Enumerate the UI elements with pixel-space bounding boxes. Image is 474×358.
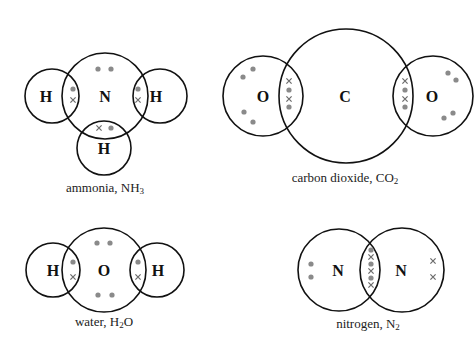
electron-cross-icon [402,96,407,101]
electron-dot-icon [108,66,113,71]
molecule-caption: water, H2O [75,314,133,330]
electron-cross-icon [430,258,435,263]
molecule-nitrogen: N N nitrogen, N2 [298,228,444,332]
atom-label: H [152,262,165,279]
electron-cross-icon [368,254,373,259]
molecule-caption: ammonia, NH3 [66,180,145,196]
electron-cross-icon [135,97,140,102]
electron-dot-icon [135,259,140,264]
molecule-ammonia: H N H H ammonia, NH3 [25,53,187,196]
electron-cross-icon [96,125,101,130]
diagram-canvas: H N H H ammonia, NH3 O C O carbon dioxid… [0,0,474,358]
electron-dot-icon [70,86,75,91]
electron-dot-icon [94,240,99,245]
electron-dot-icon [107,240,112,245]
electron-dot-icon [250,119,255,124]
electron-dot-icon [95,292,100,297]
electron-dot-icon [445,70,450,75]
molecule-caption: carbon dioxide, CO2 [292,170,399,186]
electron-cross-icon [402,78,407,83]
electron-dot-icon [368,247,373,252]
atom-label: H [98,140,111,157]
electron-dot-icon [109,292,114,297]
electron-cross-icon [135,274,140,279]
electron-cross-icon [368,282,373,287]
molecule-caption: nitrogen, N2 [336,316,400,332]
atom-label: H [40,88,53,105]
atom-label: N [395,262,407,279]
atom-label: H [47,262,60,279]
electron-dot-icon [135,86,140,91]
molecule-carbon-dioxide: O C O carbon dioxide, CO2 [223,29,473,186]
electron-group [308,247,435,287]
atom-label: O [257,88,269,105]
electron-dot-icon [368,261,373,266]
electron-dot-icon [402,87,407,92]
atom-label: O [98,262,110,279]
atom-label: N [99,88,111,105]
atom-label: N [332,262,344,279]
electron-dot-icon [453,77,458,82]
atom-label: H [150,88,163,105]
electron-dot-icon [402,104,407,109]
electron-dot-icon [286,87,291,92]
electron-dot-icon [95,66,100,71]
atom-label: O [426,88,438,105]
electron-cross-icon [368,268,373,273]
electron-dot-icon [250,66,255,71]
electron-cross-icon [286,78,291,83]
electron-cross-icon [70,274,75,279]
electron-cross-icon [430,274,435,279]
electron-cross-icon [286,96,291,101]
electron-cross-icon [70,97,75,102]
electron-dot-icon [108,125,113,130]
electron-dot-icon [308,274,313,279]
electron-dot-icon [368,275,373,280]
electron-dot-icon [240,74,245,79]
electron-dot-icon [308,261,313,266]
electron-dot-icon [450,110,455,115]
atom-label: C [339,88,351,105]
electron-dot-icon [70,259,75,264]
electron-dot-icon [286,104,291,109]
molecule-water: H O H water, H2O [26,228,184,330]
electron-dot-icon [241,109,246,114]
electron-dot-icon [441,115,446,120]
